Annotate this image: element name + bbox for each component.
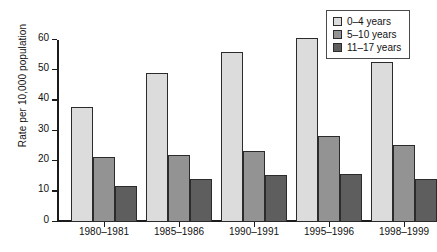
- legend-swatch-icon: [333, 43, 342, 52]
- bar: [318, 136, 340, 222]
- bar-group: [371, 40, 437, 222]
- y-axis-line: [57, 40, 59, 222]
- y-tick-label: 60: [38, 32, 49, 43]
- bar-group: [71, 40, 137, 222]
- bar: [221, 52, 243, 222]
- y-tick-label: 40: [38, 92, 49, 103]
- bar: [115, 186, 137, 222]
- bar: [146, 73, 168, 222]
- y-tick: 10: [52, 190, 57, 191]
- y-tick-label: 50: [38, 62, 49, 73]
- bar: [340, 174, 362, 222]
- y-tick-label: 30: [38, 123, 49, 134]
- plot-area: 0102030405060 1980–19811985–19861990–199…: [57, 40, 432, 222]
- y-tick: 40: [52, 99, 57, 100]
- bar: [168, 155, 190, 222]
- y-tick-label: 10: [38, 183, 49, 194]
- y-tick: 60: [52, 39, 57, 40]
- y-tick-label: 0: [43, 214, 49, 225]
- bar: [71, 107, 93, 222]
- bar: [190, 179, 212, 222]
- bar: [243, 151, 265, 222]
- bar: [415, 179, 437, 222]
- bar-group: [296, 40, 362, 222]
- legend-swatch-icon: [333, 17, 342, 26]
- legend-item: 0–4 years: [333, 15, 401, 28]
- legend-label: 11–17 years: [347, 42, 401, 53]
- bar: [93, 157, 115, 222]
- y-tick: 30: [52, 130, 57, 131]
- bar-group: [221, 40, 287, 222]
- bar: [371, 62, 393, 222]
- y-tick: 50: [52, 69, 57, 70]
- legend-swatch-icon: [333, 30, 342, 39]
- x-tick-label: 1998–1999: [349, 226, 437, 237]
- y-tick: 20: [52, 160, 57, 161]
- legend: 0–4 years5–10 years11–17 years: [326, 10, 410, 59]
- bar: [265, 175, 287, 222]
- legend-item: 11–17 years: [333, 41, 401, 54]
- bar-group: [146, 40, 212, 222]
- y-axis-title: Rate per 10,000 population: [17, 6, 28, 166]
- legend-label: 0–4 years: [347, 16, 391, 27]
- y-tick: 0: [52, 221, 57, 222]
- bar: [296, 38, 318, 222]
- bar-chart: Rate per 10,000 population 0102030405060…: [0, 0, 437, 252]
- y-tick-label: 20: [38, 153, 49, 164]
- bar: [393, 145, 415, 222]
- legend-item: 5–10 years: [333, 28, 401, 41]
- legend-label: 5–10 years: [347, 29, 396, 40]
